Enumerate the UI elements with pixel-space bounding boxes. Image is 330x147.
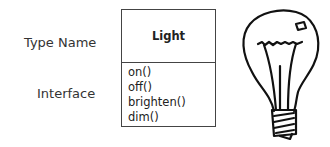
method-list: on() off() brighten() dim() bbox=[122, 63, 215, 125]
class-name: Light bbox=[122, 10, 215, 63]
uml-class-box: Light on() off() brighten() dim() bbox=[121, 9, 216, 127]
light-bulb-icon bbox=[236, 6, 322, 144]
interface-label: Interface bbox=[37, 86, 95, 101]
method-item: on() bbox=[128, 65, 215, 80]
method-item: dim() bbox=[128, 110, 215, 125]
method-item: brighten() bbox=[128, 95, 215, 110]
method-item: off() bbox=[128, 80, 215, 95]
type-name-label: Type Name bbox=[24, 35, 96, 50]
